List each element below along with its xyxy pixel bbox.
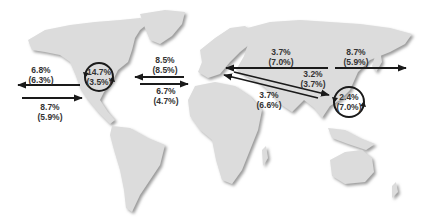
- australia: [330, 150, 374, 184]
- flow-value: 3.2%: [300, 69, 325, 79]
- label-asia-internal: 2.4% (7.0%): [336, 92, 361, 112]
- world-trade-flow-map: 6.8% (6.3%) 8.7% (5.9%) 14.7% (3.5%) 8.5…: [0, 0, 430, 221]
- flow-subvalue: (8.5%): [152, 65, 177, 75]
- flow-value: 14.7%: [86, 67, 111, 77]
- flow-subvalue: (3.5%): [86, 77, 111, 87]
- flow-subvalue: (5.9%): [37, 112, 62, 122]
- greenland: [140, 10, 185, 44]
- africa: [188, 82, 262, 184]
- flow-value: 2.4%: [336, 92, 361, 102]
- label-asia-east-out: 8.7% (5.9%): [343, 47, 368, 67]
- flow-subvalue: (7.0%): [336, 102, 361, 112]
- flow-value: 6.7%: [153, 86, 178, 96]
- label-na-internal: 14.7% (3.5%): [86, 67, 111, 87]
- flow-value: 8.7%: [343, 47, 368, 57]
- label-na-west-out: 6.8% (6.3%): [28, 65, 53, 85]
- flow-value: 6.8%: [28, 65, 53, 75]
- flow-subvalue: (7.0%): [268, 57, 293, 67]
- new-zealand: [392, 182, 398, 198]
- world-map: [0, 0, 430, 221]
- flow-subvalue: (5.9%): [343, 57, 368, 67]
- flow-value: 8.7%: [37, 102, 62, 112]
- label-asia-europe: 3.7% (7.0%): [268, 47, 293, 67]
- se-asia-islands: [328, 128, 375, 150]
- flow-value: 8.5%: [152, 55, 177, 65]
- label-atlantic-west: 8.5% (8.5%): [152, 55, 177, 75]
- madagascar: [262, 146, 268, 166]
- label-europe-asia-diag: 3.2% (3.7%): [300, 69, 325, 89]
- label-asia-europe-diag: 3.7% (6.6%): [256, 90, 281, 110]
- flow-value: 3.7%: [268, 47, 293, 57]
- south-america: [110, 126, 165, 212]
- label-atlantic-east: 6.7% (4.7%): [153, 86, 178, 106]
- flow-subvalue: (3.7%): [300, 79, 325, 89]
- flow-value: 3.7%: [256, 90, 281, 100]
- flow-subvalue: (6.3%): [28, 75, 53, 85]
- flow-subvalue: (4.7%): [153, 96, 178, 106]
- label-na-west-in: 8.7% (5.9%): [37, 102, 62, 122]
- flow-subvalue: (6.6%): [256, 100, 281, 110]
